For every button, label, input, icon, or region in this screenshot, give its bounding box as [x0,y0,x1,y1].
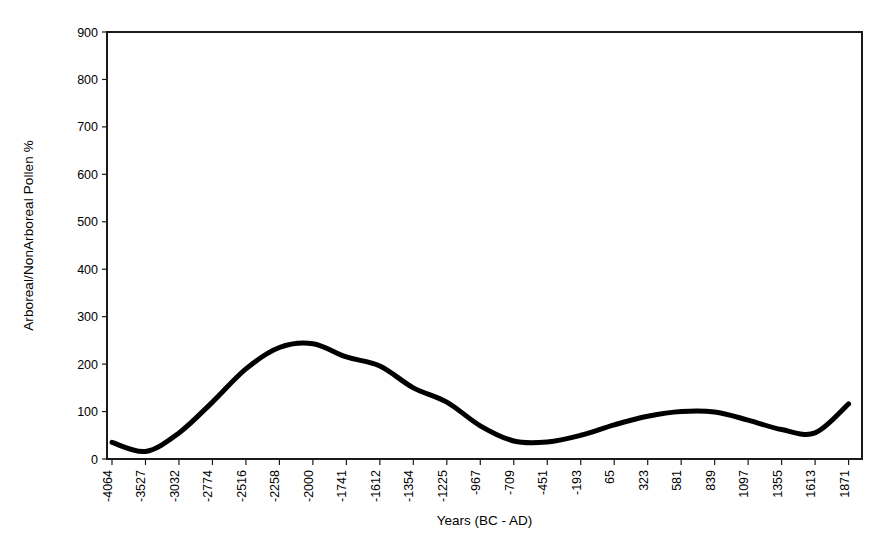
x-tick-label: -1612 [369,470,383,502]
y-tick-label: 600 [77,168,98,182]
y-tick-label: 900 [77,26,98,40]
x-tick-label: -2258 [268,470,282,502]
y-tick-label: 0 [91,453,98,467]
y-tick-label: 400 [77,263,98,277]
x-tick-label: 1097 [737,470,751,498]
x-tick-label: -1741 [335,470,349,502]
x-tick-label: 1871 [838,470,852,498]
x-axis-ticks: -4064-3527-3032-2774-2516-2258-2000-1741… [101,459,852,502]
x-tick-label: -2774 [201,470,215,502]
y-tick-label: 200 [77,358,98,372]
x-tick-label: -3032 [168,470,182,502]
x-tick-label: 581 [670,470,684,491]
x-tick-label: 839 [704,470,718,491]
x-tick-label: -1225 [436,470,450,502]
x-tick-label: -1354 [402,470,416,502]
x-tick-label: -709 [503,470,517,495]
y-tick-label: 800 [77,73,98,87]
x-tick-label: 1613 [804,470,818,498]
x-tick-label: 323 [637,470,651,491]
plot-area-svg: 0100200300400500600700800900 -4064-3527-… [0,0,890,556]
x-tick-label: -2516 [235,470,249,502]
y-tick-label: 300 [77,310,98,324]
x-tick-label: -967 [469,470,483,495]
x-tick-label: -193 [570,470,584,495]
y-tick-label: 100 [77,405,98,419]
x-tick-label: -4064 [101,470,115,502]
pollen-line-chart: Arboreal/NonArboreal Pollen % 0100200300… [0,0,890,556]
y-tick-label: 700 [77,120,98,134]
x-tick-label: 1355 [771,470,785,498]
y-axis-ticks: 0100200300400500600700800900 [77,26,107,467]
x-tick-label: -451 [536,470,550,495]
x-tick-label: 65 [603,470,617,484]
y-tick-label: 500 [77,215,98,229]
x-axis-title: Years (BC - AD) [107,513,862,528]
x-tick-label: -3527 [134,470,148,502]
x-tick-label: -2000 [302,470,316,502]
